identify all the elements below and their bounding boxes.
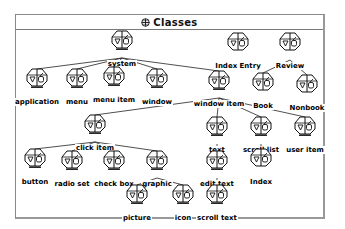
class-label: user item [285,146,325,154]
class-icon [103,150,125,171]
class-icon [206,184,228,205]
class-label: Index [249,178,273,186]
class-icon [206,116,228,137]
class-node-system[interactable]: system [92,30,152,70]
class-label: window [141,98,173,106]
class-node-index-entry[interactable]: Index Entry [208,32,268,72]
class-label: Nonbook [289,104,326,112]
class-icon [111,30,133,51]
class-node-click-item[interactable]: click item [65,114,125,154]
class-icon [146,150,168,171]
class-icon [103,66,125,87]
class-node-review[interactable]: Review [260,32,320,72]
class-icon [146,68,168,89]
class-icon [26,68,48,89]
class-icon [294,116,316,137]
class-node-scroll-text[interactable]: scroll text [187,184,247,224]
class-icon [84,114,106,135]
class-icon [296,74,318,95]
class-icon [250,116,272,137]
class-icon [250,148,272,169]
class-label: Review [275,62,305,70]
class-label: scroll text [196,214,238,222]
class-label: Book [252,102,274,110]
class-icon [208,70,230,91]
class-node-index[interactable]: Index [231,148,291,188]
class-node-window[interactable]: window [127,68,187,108]
class-node-nonbook[interactable]: Nonbook [277,74,337,114]
class-label: Index Entry [214,62,261,70]
class-icon [206,150,228,171]
class-icon [227,32,249,53]
class-icon [61,150,83,171]
class-icon [252,72,274,93]
class-label: picture [122,214,152,222]
class-icon [279,32,301,53]
class-icon [126,184,148,205]
